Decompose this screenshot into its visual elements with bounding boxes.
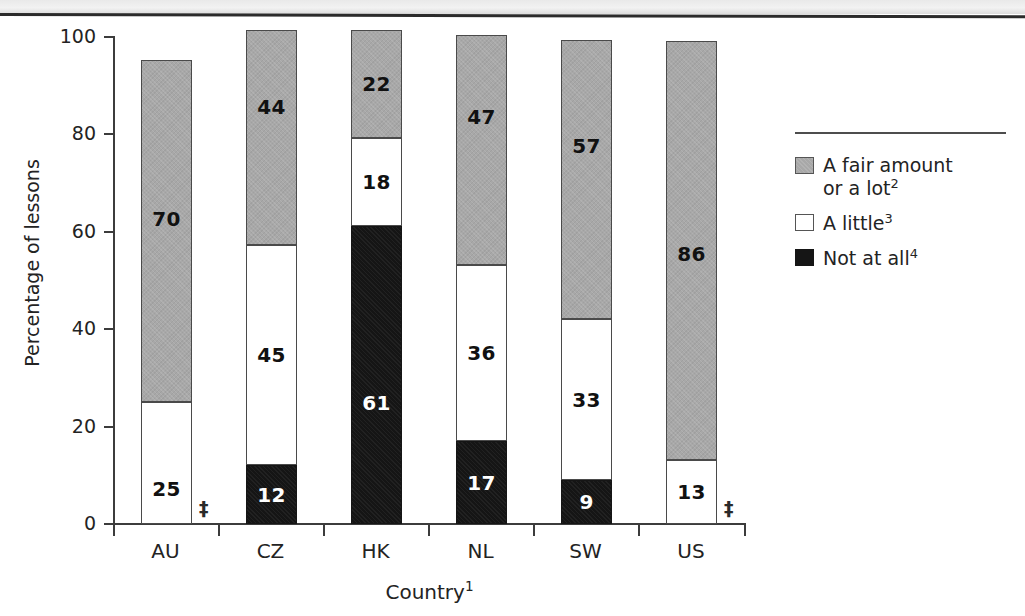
legend-footnote-2: 2 bbox=[891, 176, 899, 191]
x-tick-label-nl: NL bbox=[428, 541, 533, 561]
bar-label-hk-fair-amount: 22 bbox=[362, 74, 390, 94]
bar-label-nl-fair-amount: 47 bbox=[467, 107, 495, 127]
suppressed-marker-us: ‡ bbox=[724, 499, 734, 518]
bar-segment-au-fair-amount[interactable]: 70 bbox=[141, 60, 192, 402]
bar-label-au-fair-amount: 70 bbox=[152, 209, 180, 229]
white-swatch-icon bbox=[795, 214, 814, 231]
bar-segment-cz-a-little[interactable]: 45 bbox=[246, 245, 297, 465]
bar-group-au[interactable]: 25 70 ‡ bbox=[141, 36, 192, 524]
x-tick-label-us: US bbox=[638, 541, 744, 561]
bar-group-us[interactable]: 13 86 ‡ bbox=[666, 36, 717, 524]
bar-segment-nl-a-little[interactable]: 36 bbox=[456, 265, 507, 441]
x-tick-label-au: AU bbox=[113, 541, 218, 561]
x-axis-title: Country1 bbox=[113, 578, 746, 604]
legend-item-a-little[interactable]: A little3 bbox=[795, 211, 1010, 235]
y-tick-label-0: 0 bbox=[40, 514, 96, 533]
x-tick-boundary-2 bbox=[323, 525, 325, 536]
legend-items: A fair amountor a lot2 A little3 Not at … bbox=[795, 154, 1010, 270]
bar-group-cz[interactable]: 12 45 44 bbox=[246, 36, 297, 524]
legend-label-a-little-text: A little bbox=[823, 212, 884, 234]
bar-group-nl[interactable]: 17 36 47 bbox=[456, 36, 507, 524]
bar-label-cz-not-at-all: 12 bbox=[257, 485, 285, 505]
legend-item-not-at-all[interactable]: Not at all4 bbox=[795, 246, 1010, 270]
y-tick-label-80: 80 bbox=[40, 124, 96, 143]
bar-label-au-a-little: 25 bbox=[152, 479, 180, 499]
x-tick-boundary-0 bbox=[113, 525, 115, 536]
bar-segment-sw-a-little[interactable]: 33 bbox=[561, 319, 612, 480]
bar-label-sw-fair-amount: 57 bbox=[572, 136, 600, 156]
x-tick-boundary-6 bbox=[744, 525, 746, 536]
bar-segment-hk-not-at-all[interactable]: 61 bbox=[351, 226, 402, 524]
bar-group-sw[interactable]: 9 33 57 bbox=[561, 36, 612, 524]
bar-segment-us-fair-amount[interactable]: 86 bbox=[666, 41, 717, 460]
bar-label-nl-not-at-all: 17 bbox=[467, 473, 495, 493]
bar-label-cz-a-little: 45 bbox=[257, 345, 285, 365]
bar-segment-sw-fair-amount[interactable]: 57 bbox=[561, 40, 612, 319]
x-tick-label-sw: SW bbox=[533, 541, 638, 561]
x-tick-boundary-1 bbox=[218, 525, 220, 536]
bar-segment-au-a-little[interactable]: 25 bbox=[141, 402, 192, 524]
bar-label-sw-a-little: 33 bbox=[572, 390, 600, 410]
legend-item-fair-amount[interactable]: A fair amountor a lot2 bbox=[795, 154, 1010, 200]
legend-label-not-at-all: Not at all4 bbox=[823, 246, 918, 270]
bar-segment-hk-fair-amount[interactable]: 22 bbox=[351, 30, 402, 138]
y-tick-label-100: 100 bbox=[40, 27, 96, 46]
legend-label-fair-amount-line1: A fair amount bbox=[823, 154, 953, 176]
bar-segment-cz-not-at-all[interactable]: 12 bbox=[246, 465, 297, 524]
x-axis-title-footnote: 1 bbox=[465, 578, 474, 594]
bar-segment-sw-not-at-all[interactable]: 9 bbox=[561, 480, 612, 524]
stacked-bar-chart-figure: 100 80 60 40 20 0 Percentage of lessons … bbox=[0, 0, 1025, 616]
chart-legend: A fair amountor a lot2 A little3 Not at … bbox=[795, 132, 1010, 281]
y-tick-label-40: 40 bbox=[40, 319, 96, 338]
black-swatch-icon bbox=[795, 249, 814, 266]
bar-segment-nl-not-at-all[interactable]: 17 bbox=[456, 441, 507, 524]
y-tick-labels: 100 80 60 40 20 0 bbox=[34, 0, 96, 616]
bar-label-us-fair-amount: 86 bbox=[677, 244, 705, 264]
legend-label-fair-amount: A fair amountor a lot2 bbox=[823, 154, 953, 200]
bar-group-hk[interactable]: 61 18 22 bbox=[351, 36, 402, 524]
x-tick-boundary-3 bbox=[428, 525, 430, 536]
x-axis-title-text: Country bbox=[385, 580, 464, 604]
bar-label-cz-fair-amount: 44 bbox=[257, 97, 285, 117]
legend-footnote-3: 3 bbox=[884, 211, 892, 226]
y-tick-label-20: 20 bbox=[40, 417, 96, 436]
bar-segment-cz-fair-amount[interactable]: 44 bbox=[246, 30, 297, 245]
y-tick-label-60: 60 bbox=[40, 222, 96, 241]
x-tick-boundary-5 bbox=[638, 525, 640, 536]
bar-label-sw-not-at-all: 9 bbox=[579, 492, 593, 512]
legend-footnote-4: 4 bbox=[910, 246, 918, 261]
bar-segment-us-a-little[interactable]: 13 bbox=[666, 460, 717, 524]
gray-swatch-icon bbox=[795, 157, 814, 174]
bar-label-us-a-little: 13 bbox=[677, 482, 705, 502]
bar-label-hk-not-at-all: 61 bbox=[362, 393, 390, 413]
plot-area: 25 70 ‡ 12 45 44 61 18 bbox=[113, 36, 745, 524]
bar-label-hk-a-little: 18 bbox=[362, 172, 390, 192]
y-axis-title: Percentage of lessons bbox=[21, 63, 43, 463]
x-tick-label-cz: CZ bbox=[218, 541, 323, 561]
bar-segment-hk-a-little[interactable]: 18 bbox=[351, 138, 402, 226]
legend-top-rule bbox=[795, 132, 1006, 134]
x-tick-label-hk: HK bbox=[323, 541, 428, 561]
bar-segment-nl-fair-amount[interactable]: 47 bbox=[456, 35, 507, 265]
legend-label-a-little: A little3 bbox=[823, 211, 893, 235]
legend-label-not-at-all-text: Not at all bbox=[823, 247, 910, 269]
x-tick-boundary-4 bbox=[533, 525, 535, 536]
legend-label-fair-amount-line2: or a lot bbox=[823, 178, 891, 200]
suppressed-marker-au: ‡ bbox=[199, 499, 209, 518]
bar-label-nl-a-little: 36 bbox=[467, 343, 495, 363]
